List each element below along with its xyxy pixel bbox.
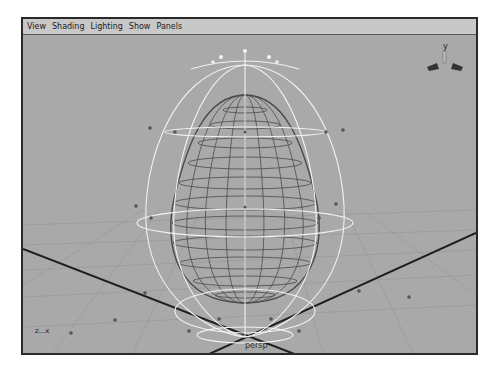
ground-grid	[23, 205, 476, 353]
left-axis-arrow-icon	[427, 63, 439, 71]
axis-indicator-label: z...x	[35, 327, 50, 335]
scene-canvas[interactable]	[23, 35, 476, 353]
perspective-viewport[interactable]: View Shading Lighting Show Panels	[21, 17, 478, 355]
panel-menubar: View Shading Lighting Show Panels	[23, 19, 476, 35]
menu-lighting[interactable]: Lighting	[90, 19, 122, 34]
menu-view[interactable]: View	[27, 19, 46, 34]
right-axis-arrow-icon	[451, 63, 463, 71]
view-axis-gizmo[interactable]: y	[423, 41, 467, 77]
menu-panels[interactable]: Panels	[156, 19, 182, 34]
grid-axes	[23, 233, 476, 353]
lattice-deformer	[137, 53, 353, 343]
menu-shading[interactable]: Shading	[52, 19, 85, 34]
menu-show[interactable]: Show	[129, 19, 151, 34]
camera-name-label: persp	[245, 341, 268, 350]
y-axis-label: y	[443, 42, 448, 51]
